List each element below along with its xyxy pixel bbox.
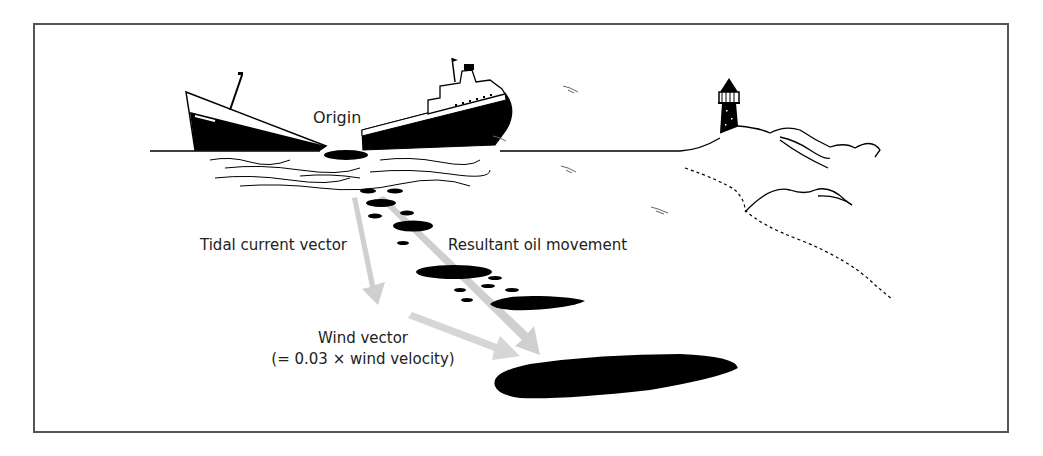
lighthouse xyxy=(718,78,740,133)
label-origin: Origin xyxy=(313,108,361,127)
water-ripples xyxy=(210,158,490,189)
illustration xyxy=(0,0,1043,456)
ship-bow xyxy=(186,72,326,150)
label-wind-vector-formula: (= 0.03 × wind velocity) xyxy=(238,350,488,368)
ship-stern xyxy=(362,58,512,150)
label-wind-vector: Wind vector xyxy=(258,329,468,347)
seabird-icon xyxy=(493,86,668,214)
label-resultant-oil-movement: Resultant oil movement xyxy=(448,236,627,254)
hills xyxy=(720,126,880,212)
label-tidal-current-vector: Tidal current vector xyxy=(200,236,347,254)
coastline xyxy=(685,168,893,300)
oil-slick-origin xyxy=(324,150,368,160)
tidal-current-arrow xyxy=(352,197,385,305)
